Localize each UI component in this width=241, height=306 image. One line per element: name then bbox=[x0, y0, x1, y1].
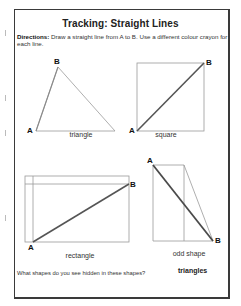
question-text: What shapes do you see hidden in these s… bbox=[17, 270, 145, 276]
rectangle-point-b: B bbox=[130, 180, 136, 189]
rectangle-label: rectangle bbox=[55, 252, 105, 259]
square-point-a: A bbox=[129, 126, 135, 135]
traced-line[interactable] bbox=[153, 165, 213, 241]
odd-shape-point-b: B bbox=[215, 236, 221, 245]
odd-shape bbox=[153, 165, 213, 241]
triangle-point-a: A bbox=[27, 126, 33, 135]
square-label: square bbox=[146, 131, 186, 138]
traced-line[interactable] bbox=[36, 67, 58, 131]
rectangle-shape bbox=[25, 176, 129, 242]
rectangle-point-a: A bbox=[28, 243, 34, 252]
triangle-shape bbox=[36, 67, 115, 131]
square-point-b: B bbox=[206, 58, 212, 67]
answer-text: triangles bbox=[178, 267, 207, 274]
traced-line[interactable] bbox=[33, 184, 129, 242]
triangle-point-b: B bbox=[54, 57, 60, 66]
odd-shape-label: odd shape bbox=[164, 250, 214, 257]
shapes-canvas bbox=[0, 0, 241, 306]
traced-line[interactable] bbox=[137, 63, 204, 131]
square-shape bbox=[137, 63, 204, 131]
odd-shape-point-a: A bbox=[147, 156, 153, 165]
triangle-label: triangle bbox=[56, 131, 106, 138]
